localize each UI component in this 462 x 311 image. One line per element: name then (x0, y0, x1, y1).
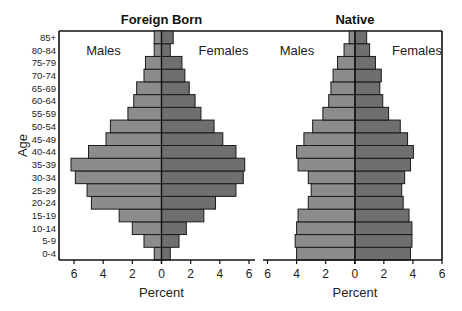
age-tick-label: 25-29 (32, 185, 56, 196)
female-bar-15-19 (162, 209, 204, 222)
female-bar-5-9 (355, 235, 412, 248)
female-bar-55-59 (162, 107, 201, 120)
male-bar-70-74 (144, 69, 162, 82)
x-tick-label: 0 (158, 267, 165, 281)
male-bar-25-29 (311, 184, 355, 197)
population-pyramid-figure: 0-45-910-1415-1920-2425-2930-3435-3940-4… (0, 0, 462, 311)
male-bar-40-44 (89, 146, 162, 159)
x-tick-label: 6 (71, 267, 78, 281)
female-bar-65-69 (162, 82, 190, 95)
females-label: Females (392, 43, 442, 58)
male-bar-85+ (349, 31, 355, 44)
female-bar-75-79 (355, 56, 375, 69)
female-bar-80-84 (355, 44, 370, 57)
x-tick-label: 2 (187, 267, 194, 281)
male-bar-5-9 (295, 235, 355, 248)
female-bar-10-14 (355, 222, 412, 235)
x-tick-label: 2 (380, 267, 387, 281)
male-bar-45-49 (304, 133, 355, 146)
male-bar-70-74 (333, 69, 355, 82)
age-tick-label: 35-39 (32, 159, 56, 170)
age-tick-label: 65-69 (32, 83, 56, 94)
male-bar-65-69 (331, 82, 355, 95)
males-label: Males (280, 43, 315, 58)
pyramid-chart-canvas: 0-45-910-1415-1920-2425-2930-3435-3940-4… (0, 0, 462, 311)
age-tick-label: 85+ (40, 32, 57, 43)
age-tick-label: 30-34 (32, 172, 56, 183)
age-tick-label: 20-24 (32, 197, 56, 208)
female-bar-30-34 (162, 171, 244, 184)
male-bar-55-59 (128, 107, 162, 120)
age-tick-label: 80-84 (32, 45, 56, 56)
x-axis-title: Percent (139, 285, 184, 300)
x-tick-label: 6 (246, 267, 253, 281)
x-tick-label: 6 (264, 267, 271, 281)
female-bar-25-29 (355, 184, 402, 197)
female-bar-0-4 (162, 247, 171, 260)
female-bar-45-49 (162, 133, 223, 146)
female-bar-60-64 (162, 95, 196, 108)
female-bar-40-44 (355, 146, 413, 159)
male-bar-60-64 (329, 95, 355, 108)
male-bar-30-34 (308, 171, 355, 184)
male-bar-0-4 (154, 247, 161, 260)
male-bar-75-79 (145, 56, 161, 69)
x-tick-label: 4 (293, 267, 300, 281)
female-bar-0-4 (355, 247, 410, 260)
male-bar-85+ (154, 31, 161, 44)
male-bar-80-84 (154, 44, 161, 57)
x-tick-label: 4 (100, 267, 107, 281)
female-bar-55-59 (355, 107, 389, 120)
age-tick-label: 40-44 (32, 146, 56, 157)
male-bar-35-39 (298, 158, 355, 171)
male-bar-0-4 (297, 247, 355, 260)
female-bar-5-9 (162, 235, 180, 248)
male-bar-10-14 (132, 222, 161, 235)
age-tick-label: 50-54 (32, 121, 56, 132)
age-tick-label: 60-64 (32, 95, 56, 106)
female-bar-45-49 (355, 133, 408, 146)
male-bar-10-14 (297, 222, 355, 235)
female-bar-20-24 (355, 196, 403, 209)
x-tick-label: 2 (322, 267, 329, 281)
female-bar-35-39 (162, 158, 245, 171)
male-bar-55-59 (323, 107, 355, 120)
age-tick-label: 70-74 (32, 70, 56, 81)
male-bar-75-79 (337, 56, 355, 69)
age-tick-label: 45-49 (32, 134, 56, 145)
female-bar-20-24 (162, 196, 216, 209)
female-bar-35-39 (355, 158, 410, 171)
male-bar-50-54 (313, 120, 355, 133)
male-bar-50-54 (110, 120, 161, 133)
x-axis-title: Percent (333, 285, 378, 300)
panel-title: Native (335, 12, 374, 27)
female-bar-25-29 (162, 184, 236, 197)
female-bar-10-14 (162, 222, 187, 235)
age-tick-label: 55-59 (32, 108, 56, 119)
female-bar-50-54 (355, 120, 400, 133)
female-bar-65-69 (355, 82, 380, 95)
x-tick-label: 4 (410, 267, 417, 281)
female-bar-40-44 (162, 146, 236, 159)
female-bar-50-54 (162, 120, 215, 133)
male-bar-15-19 (298, 209, 355, 222)
male-bar-20-24 (308, 196, 355, 209)
females-label: Females (199, 43, 249, 58)
age-tick-label: 75-79 (32, 57, 56, 68)
age-tick-label: 10-14 (32, 223, 56, 234)
male-bar-40-44 (297, 146, 355, 159)
male-bar-65-69 (137, 82, 162, 95)
female-bar-70-74 (355, 69, 381, 82)
female-bar-15-19 (355, 209, 409, 222)
female-bar-75-79 (162, 56, 182, 69)
male-bar-60-64 (134, 95, 162, 108)
male-bar-45-49 (106, 133, 161, 146)
x-tick-label: 2 (129, 267, 136, 281)
male-bar-25-29 (87, 184, 161, 197)
female-bar-70-74 (162, 69, 185, 82)
age-tick-label: 15-19 (32, 210, 56, 221)
age-tick-label: 0-4 (42, 248, 56, 259)
age-tick-label: 5-9 (42, 235, 56, 246)
female-bar-60-64 (355, 95, 383, 108)
male-bar-80-84 (344, 44, 355, 57)
